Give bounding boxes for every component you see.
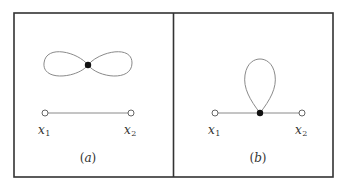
label-x1: x1 bbox=[208, 123, 220, 138]
panel-a: x1 x2 (a) bbox=[38, 52, 136, 165]
caption-a: (a) bbox=[80, 151, 97, 165]
panel-b: x1 x2 (b) bbox=[208, 59, 307, 165]
diagram-figure: x1 x2 (a) x1 x2 (b) bbox=[0, 0, 348, 185]
endpoint-x1-open-dot bbox=[212, 110, 218, 116]
teardrop-loop bbox=[245, 59, 276, 113]
endpoint-x1-open-dot bbox=[42, 110, 48, 116]
label-x1: x1 bbox=[38, 123, 50, 138]
endpoint-x2-open-dot bbox=[128, 110, 134, 116]
label-x2: x2 bbox=[124, 123, 136, 138]
label-x2: x2 bbox=[295, 123, 307, 138]
caption-b: (b) bbox=[249, 151, 266, 165]
vertex-filled-dot bbox=[257, 110, 263, 116]
vertex-filled-dot bbox=[85, 62, 91, 68]
endpoint-x2-open-dot bbox=[299, 110, 305, 116]
